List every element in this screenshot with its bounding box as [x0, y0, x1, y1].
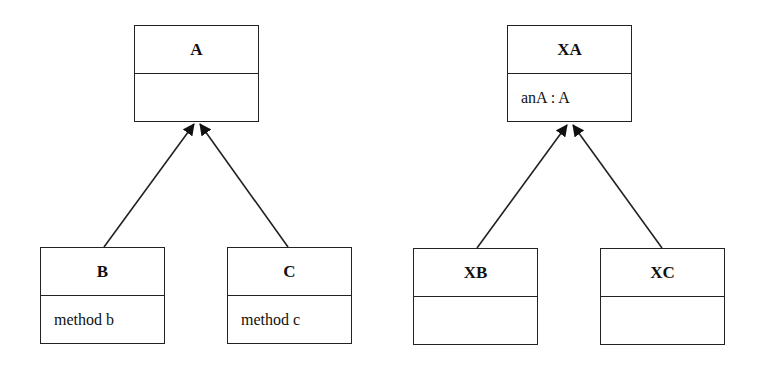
class-members: anA : A: [508, 74, 631, 121]
class-name: XA: [508, 26, 631, 74]
arrow-xc-to-xa: [573, 125, 662, 248]
arrow-c-to-a: [200, 124, 288, 247]
class-box-xa: XA anA : A: [507, 25, 632, 122]
class-name: B: [41, 248, 164, 296]
class-box-xc: XC: [600, 248, 725, 345]
class-members: [135, 74, 258, 121]
class-members: method c: [228, 296, 351, 343]
class-name: XB: [414, 249, 537, 297]
class-name: A: [135, 26, 258, 74]
class-name: XC: [601, 249, 724, 297]
class-members: [414, 297, 537, 344]
class-box-b: B method b: [40, 247, 165, 344]
arrow-b-to-a: [104, 124, 194, 247]
class-members: [601, 297, 724, 344]
class-box-a: A: [134, 25, 259, 122]
class-name: C: [228, 248, 351, 296]
class-members: method b: [41, 296, 164, 343]
arrow-xb-to-xa: [477, 125, 567, 248]
class-box-c: C method c: [227, 247, 352, 344]
class-box-xb: XB: [413, 248, 538, 345]
